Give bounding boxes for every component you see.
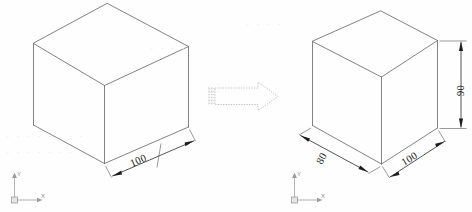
extension-line <box>299 128 311 135</box>
arrow-tail-hatch <box>209 87 216 105</box>
cube-bottom-right-edge <box>105 127 189 164</box>
original-cube[interactable] <box>34 4 189 164</box>
ucs-icon-right[interactable]: Y X <box>292 171 326 203</box>
extension-line <box>190 130 196 142</box>
arrow-outline <box>215 82 278 111</box>
transform-arrow <box>209 82 279 111</box>
dimension-value-left-100: 100 <box>128 152 148 169</box>
dimension-arrowhead <box>435 142 444 148</box>
dimension-right-90[interactable]: 90 <box>440 41 467 129</box>
dimension-arrowhead <box>390 171 400 177</box>
dimension-left-100[interactable]: 100 <box>106 130 196 178</box>
stretched-box[interactable] <box>313 11 438 164</box>
dimension-arrowhead <box>185 141 194 147</box>
extension-line <box>383 167 390 179</box>
ucs-label-y: Y <box>17 171 21 177</box>
extension-line <box>106 166 112 178</box>
dimension-value-right-80: 80 <box>314 151 329 166</box>
drawing-canvas: 100 Y X <box>0 0 472 212</box>
dimension-arrowhead <box>359 166 369 172</box>
dimension-right-100[interactable]: 100 <box>383 131 446 179</box>
cube-top-face <box>34 4 189 86</box>
dimension-value-right-100: 100 <box>399 150 419 168</box>
ucs-label-x: X <box>41 193 45 199</box>
dimension-line <box>113 141 195 176</box>
extension-line <box>369 167 381 174</box>
dimension-value-right-90: 90 <box>455 85 466 96</box>
dimension-arrowhead <box>113 171 123 176</box>
dimension-arrowhead <box>459 119 463 129</box>
ucs-icon-left[interactable]: Y X <box>12 171 46 203</box>
cube-bottom-left-edge <box>34 125 105 164</box>
dimension-right-80[interactable]: 80 <box>299 128 381 174</box>
dimension-arrowhead <box>459 42 463 52</box>
ucs-label-y: Y <box>297 171 301 177</box>
cad-drawing: 100 Y X <box>0 0 472 212</box>
ucs-origin-box <box>292 197 298 203</box>
dimension-line <box>301 136 369 173</box>
ucs-origin-box <box>12 197 18 203</box>
dimension-arrowhead <box>301 136 311 142</box>
extension-line <box>439 131 446 143</box>
box-top-face <box>313 11 438 77</box>
ucs-label-x: X <box>321 193 325 199</box>
